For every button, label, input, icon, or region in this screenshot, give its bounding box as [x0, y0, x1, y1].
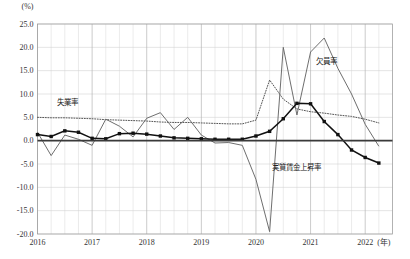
data-point-marker [145, 132, 148, 135]
x-tick-label: 2020 [248, 238, 264, 247]
y-tick-label: 20.0 [20, 43, 34, 52]
data-point-marker [118, 132, 121, 135]
data-point-marker [36, 133, 39, 136]
data-series-layer [36, 38, 381, 232]
data-point-marker [350, 148, 353, 151]
data-point-marker [377, 161, 380, 164]
data-point-marker [172, 136, 175, 139]
series-line-1 [38, 38, 379, 232]
x-tick-label: 2016 [30, 238, 46, 247]
vacancy-rate-label: 欠員率 [316, 56, 338, 66]
series-line-2 [38, 103, 379, 163]
y-tick-label: 0.0 [24, 136, 34, 145]
data-point-marker [131, 132, 134, 135]
data-point-marker [363, 156, 366, 159]
data-point-marker [295, 102, 298, 105]
data-point-marker [323, 120, 326, 123]
y-tick-label: -10.0 [17, 183, 34, 192]
real-wage-growth-label: 実質賃金上昇率 [272, 162, 322, 172]
y-tick-label: 5.0 [24, 113, 34, 122]
x-axis-unit-label: (年) [377, 237, 391, 247]
x-tick-label: 2017 [84, 238, 100, 247]
gridlines [38, 24, 393, 234]
data-point-marker [90, 137, 93, 140]
x-tick-label: 2018 [139, 238, 155, 247]
y-tick-label: -15.0 [17, 206, 34, 215]
data-point-marker [282, 117, 285, 120]
y-tick-label: -5.0 [21, 160, 34, 169]
data-point-marker [309, 102, 312, 105]
unemployment-rate-label: 失業率 [57, 97, 79, 107]
data-point-marker [159, 134, 162, 137]
data-point-marker [268, 130, 271, 133]
data-point-marker [336, 133, 339, 136]
y-axis-unit-label: (%) [22, 2, 34, 11]
x-tick-label: 2019 [193, 238, 209, 247]
data-point-marker [49, 135, 52, 138]
data-point-marker [186, 137, 189, 140]
x-axis-tick-labels: 2016201720182019202020212022(年) [30, 237, 391, 247]
data-point-marker [63, 129, 66, 132]
line-chart: 25.020.015.010.05.00.0-5.0-10.0-15.0-20.… [0, 0, 410, 259]
chart-container: 25.020.015.010.05.00.0-5.0-10.0-15.0-20.… [0, 0, 410, 259]
y-tick-label: 25.0 [20, 20, 34, 29]
y-tick-label: 15.0 [20, 66, 34, 75]
y-axis-tick-labels: 25.020.015.010.05.00.0-5.0-10.0-15.0-20.… [17, 2, 34, 239]
x-tick-label: 2021 [303, 238, 319, 247]
y-tick-label: 10.0 [20, 90, 34, 99]
data-point-marker [77, 131, 80, 134]
data-point-marker [254, 134, 257, 137]
x-tick-label: 2022 [357, 238, 373, 247]
